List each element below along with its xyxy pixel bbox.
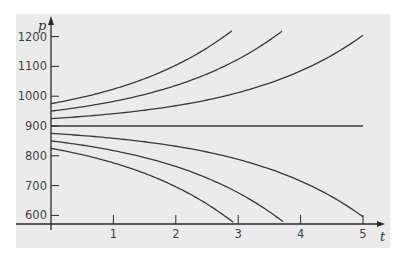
- chart: 12345 600700800900100011001200 t p: [0, 0, 403, 260]
- x-tick-label: 5: [359, 227, 366, 241]
- y-tick-label: 1100: [18, 59, 47, 73]
- y-tick-label: 700: [25, 179, 47, 193]
- y-tick-label: 600: [25, 208, 47, 222]
- x-tick-label: 2: [172, 227, 179, 241]
- chart-panel: [16, 14, 390, 248]
- y-tick-label: 1000: [18, 89, 47, 103]
- x-tick-label: 4: [297, 227, 304, 241]
- x-tick-label: 1: [110, 227, 117, 241]
- x-tick-label: 3: [235, 227, 242, 241]
- y-axis-label: p: [38, 18, 47, 33]
- y-tick-label: 800: [25, 149, 47, 163]
- x-axis-label: t: [380, 229, 386, 244]
- y-tick-label: 900: [25, 119, 47, 133]
